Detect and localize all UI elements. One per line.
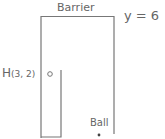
- hole-letter: H: [2, 66, 11, 80]
- hole-icon: [48, 72, 53, 77]
- barrier-label: Barrier: [57, 1, 95, 14]
- barrier-equation: y = 6: [124, 8, 159, 23]
- channel-wall: [41, 70, 61, 137]
- hole-label: H(3, 2): [2, 66, 35, 80]
- ball-icon: [98, 134, 101, 137]
- hole-coordinates: (3, 2): [11, 69, 35, 79]
- ball-label: Ball: [90, 117, 109, 128]
